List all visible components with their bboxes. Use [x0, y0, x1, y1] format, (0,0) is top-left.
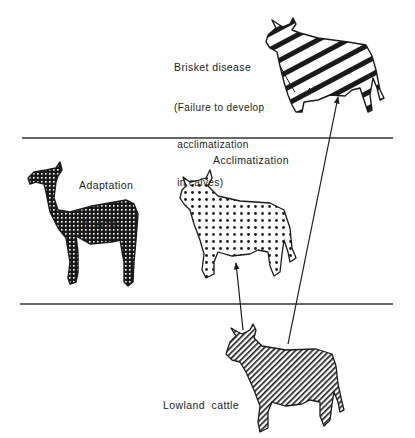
- lowland-cattle-label: Lowland cattle: [163, 399, 239, 412]
- adaptation-line-1: Adaptation: [79, 179, 133, 192]
- brisket-title: Brisket disease: [174, 61, 264, 74]
- lowland-cow-illustration: [226, 324, 344, 432]
- adaptation-line-2: in llama: [79, 217, 133, 230]
- adaptation-label: Adaptation in llama: [79, 154, 133, 254]
- brisket-disease-label: Brisket disease (Failure to develop accl…: [174, 36, 264, 214]
- brisket-cow-illustration: [266, 18, 384, 112]
- brisket-note-line-2: acclimatization: [174, 139, 264, 152]
- arrow-to-brisket-disease: [288, 97, 338, 344]
- acclimatization-label: Acclimatization: [213, 154, 289, 167]
- diagram-canvas: Brisket disease (Failure to develop accl…: [0, 0, 415, 438]
- brisket-note-line-1: (Failure to develop: [174, 102, 264, 115]
- arrow-to-acclimatization: [236, 263, 243, 330]
- brisket-note-line-3: in calves): [174, 177, 264, 190]
